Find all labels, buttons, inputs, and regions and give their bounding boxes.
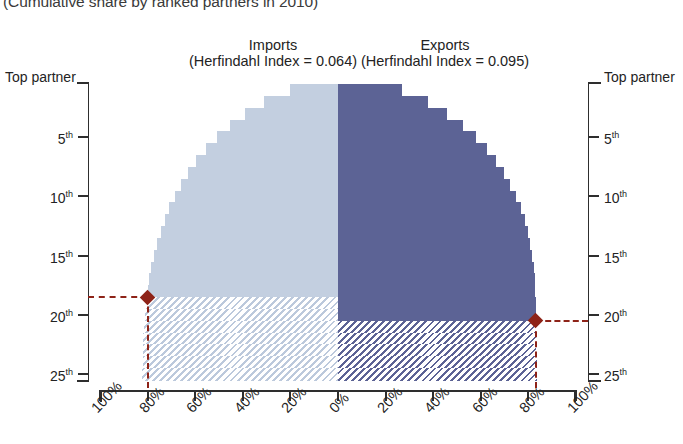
- bar-exports-rank-9: [338, 179, 510, 191]
- y-tick-right-15: [589, 255, 599, 257]
- bar-imports-rank-20: [145, 309, 338, 321]
- imports-threshold-dashed-vertical: [147, 297, 149, 388]
- bar-imports-rank-14: [157, 238, 338, 250]
- y-axis-right-title: Top partner: [604, 70, 678, 85]
- y-axis-label-left-5: 5th: [5, 128, 73, 147]
- bar-imports-rank-17: [149, 273, 338, 285]
- y-tick-left-20: [78, 314, 88, 316]
- bar-imports-rank-2: [264, 96, 338, 108]
- bar-imports-rank-13: [161, 226, 338, 238]
- bar-imports-rank-1: [290, 84, 338, 96]
- y-axis-label-right-25: 25th: [604, 365, 674, 384]
- bar-imports-rank-11: [169, 202, 338, 214]
- bar-exports-rank-1: [338, 84, 402, 96]
- y-axis-left-title-text: Top partner: [5, 69, 76, 85]
- y-axis-right-spine: [588, 82, 589, 382]
- bar-exports-rank-25: [338, 368, 537, 380]
- bar-exports-rank-8: [338, 167, 504, 179]
- y-tick-left-15: [78, 255, 88, 257]
- bar-imports-rank-10: [175, 191, 338, 203]
- bar-layer: [0, 0, 683, 444]
- bar-exports-rank-17: [338, 273, 535, 285]
- bar-imports-rank-18: [148, 285, 338, 297]
- bar-exports-rank-12: [338, 214, 525, 226]
- y-axis-left-bottom-cap: [77, 380, 89, 382]
- y-axis-label-right-15: 15th: [604, 247, 674, 266]
- y-axis-right-title-text: Top partner: [604, 69, 675, 85]
- y-tick-right-20: [589, 314, 599, 316]
- y-axis-left-title: Top partner: [5, 70, 73, 85]
- bar-exports-rank-22: [338, 333, 536, 345]
- y-tick-right-10: [589, 195, 599, 197]
- bar-exports-rank-2: [338, 96, 428, 108]
- bar-imports-rank-9: [181, 179, 338, 191]
- y-tick-right-25: [589, 373, 599, 375]
- y-axis-label-left-15: 15th: [5, 247, 73, 266]
- bar-imports-rank-4: [230, 120, 338, 132]
- chart-root: (Cumulative share by ranked partners in …: [0, 0, 683, 444]
- bar-exports-rank-10: [338, 191, 516, 203]
- bar-exports-rank-15: [338, 250, 532, 262]
- bar-exports-rank-20: [338, 309, 536, 321]
- bar-imports-rank-12: [165, 214, 338, 226]
- y-axis-left-top-cap: [77, 82, 89, 84]
- y-tick-left-25: [78, 373, 88, 375]
- bar-imports-rank-15: [154, 250, 338, 262]
- bar-exports-rank-19: [338, 297, 536, 309]
- bar-exports-rank-7: [338, 155, 496, 167]
- bar-imports-rank-6: [206, 143, 338, 155]
- bar-exports-rank-3: [338, 108, 447, 120]
- y-axis-label-left-20: 20th: [5, 306, 73, 325]
- bar-imports-rank-21: [144, 321, 338, 333]
- bar-imports-rank-7: [196, 155, 338, 167]
- bar-imports-rank-5: [217, 131, 338, 143]
- bar-exports-rank-23: [338, 344, 536, 356]
- exports-threshold-dashed-vertical: [535, 321, 537, 388]
- bar-exports-rank-6: [338, 143, 487, 155]
- y-axis-label-left-25: 25th: [5, 365, 73, 384]
- y-axis-label-right-5: 5th: [604, 128, 674, 147]
- bar-exports-rank-11: [338, 202, 521, 214]
- y-tick-left-5: [78, 136, 88, 138]
- bar-exports-rank-24: [338, 356, 537, 368]
- bar-imports-rank-22: [143, 333, 338, 345]
- y-axis-label-right-20: 20th: [604, 306, 674, 325]
- bar-imports-rank-3: [245, 108, 338, 120]
- bar-exports-rank-21: [338, 321, 536, 333]
- bar-imports-rank-23: [143, 344, 338, 356]
- bar-imports-rank-25: [142, 368, 338, 380]
- bar-exports-rank-5: [338, 131, 476, 143]
- y-axis-label-right-10: 10th: [604, 187, 674, 206]
- bar-exports-rank-4: [338, 120, 463, 132]
- bar-imports-rank-8: [188, 167, 338, 179]
- y-tick-left-10: [78, 195, 88, 197]
- bar-imports-rank-19: [146, 297, 338, 309]
- bar-exports-rank-16: [338, 262, 534, 274]
- bar-exports-rank-18: [338, 285, 535, 297]
- y-axis-label-left-10: 10th: [5, 187, 73, 206]
- y-tick-right-5: [589, 136, 599, 138]
- bar-imports-rank-24: [143, 356, 338, 368]
- y-axis-left-spine: [88, 82, 89, 382]
- bar-exports-rank-13: [338, 226, 528, 238]
- bar-exports-rank-14: [338, 238, 530, 250]
- y-axis-right-top-cap: [589, 82, 601, 84]
- bar-imports-rank-16: [151, 262, 338, 274]
